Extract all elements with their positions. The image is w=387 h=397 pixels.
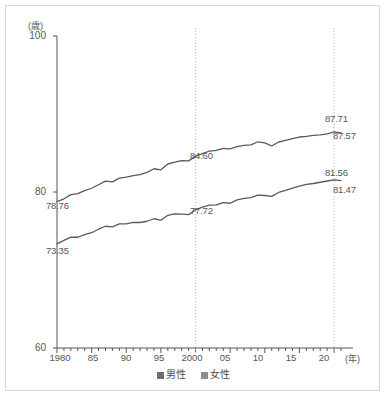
data-label-female-end: 87.57 [333, 130, 356, 141]
data-label-male-end: 81.47 [333, 184, 356, 195]
data-label-female-start: 78.76 [46, 200, 69, 211]
series-line-female [57, 132, 341, 202]
data-label-male-start: 73.35 [46, 245, 69, 256]
legend-label-female: 女性 [210, 366, 230, 381]
legend-label-male: 男性 [166, 366, 186, 381]
data-label-male-2000: 77.72 [190, 205, 213, 216]
y-tick-label-100: 100 [20, 30, 46, 41]
data-label-male-peak: 81.56 [325, 167, 348, 178]
chart-legend: 男性 女性 [0, 366, 387, 381]
series-group [57, 132, 341, 244]
legend-swatch-female-icon [201, 372, 208, 379]
axis-group [53, 36, 353, 353]
legend-item-male[interactable]: 男性 [157, 366, 186, 381]
reference-line-group [196, 28, 335, 354]
data-label-female-2000: 84.60 [190, 150, 213, 161]
legend-swatch-male-icon [157, 372, 164, 379]
data-label-female-peak: 87.71 [325, 113, 348, 124]
x-axis-unit-label: (年) [345, 352, 360, 365]
x-tick-label-20: 20 [304, 352, 344, 363]
life-expectancy-chart [0, 0, 387, 397]
y-tick-label-80: 80 [20, 186, 46, 197]
chart-svg [0, 0, 387, 397]
legend-item-female[interactable]: 女性 [201, 366, 230, 381]
